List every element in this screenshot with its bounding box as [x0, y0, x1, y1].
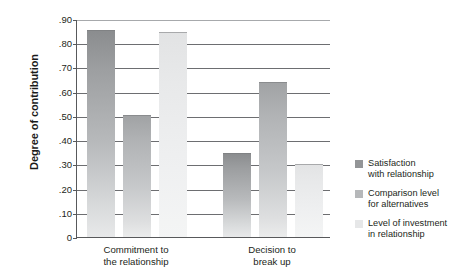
- plot-area: .90.80.70.60.50.40.30.20.100: [76, 20, 330, 238]
- y-axis-tick-label: 0: [67, 233, 72, 243]
- x-axis-category-label-line: Decision to: [202, 244, 342, 256]
- legend-label-line: Comparison level: [368, 188, 439, 199]
- x-axis-category-label: Decision tobreak up: [202, 244, 342, 269]
- gridline: [77, 20, 330, 21]
- legend-label: Satisfactionwith relationship: [368, 158, 434, 181]
- y-axis-tick-label: .70: [59, 64, 72, 74]
- legend-swatch: [355, 160, 363, 168]
- y-axis-tick-label: .90: [59, 15, 72, 25]
- legend-label-line: for alternatives: [368, 199, 439, 210]
- chart-legend: Satisfactionwith relationshipComparison …: [355, 158, 461, 247]
- legend-label-line: Level of investment: [368, 218, 447, 229]
- bar-top-edge: [223, 153, 251, 154]
- legend-swatch: [355, 190, 363, 198]
- bar-top-edge: [159, 32, 187, 33]
- bar: [159, 32, 187, 237]
- y-axis-tick-label: .30: [59, 161, 72, 171]
- legend-item: Comparison levelfor alternatives: [355, 188, 461, 211]
- bar-top-edge: [123, 115, 151, 116]
- bar: [87, 30, 115, 237]
- bar-chart-figure: Degree of contribution .90.80.70.60.50.4…: [0, 0, 461, 280]
- y-axis-tick-label: .50: [59, 112, 72, 122]
- x-axis-category-label-line: break up: [202, 256, 342, 268]
- y-axis-tick-mark: [73, 190, 77, 191]
- y-axis-tick-mark: [73, 214, 77, 215]
- y-axis-tick-mark: [73, 238, 77, 239]
- legend-label: Comparison levelfor alternatives: [368, 188, 439, 211]
- bar-top-edge: [259, 82, 287, 83]
- y-axis-tick-mark: [73, 68, 77, 69]
- y-axis-tick-mark: [73, 93, 77, 94]
- legend-label-line: with relationship: [368, 169, 434, 180]
- x-axis-category-label-line: Commitment to: [66, 244, 206, 256]
- y-axis-tick-label: .20: [59, 185, 72, 195]
- x-axis-category-label-line: the relationship: [66, 256, 206, 268]
- legend-label-line: Satisfaction: [368, 158, 434, 169]
- y-axis-tick-label: .40: [59, 136, 72, 146]
- legend-item: Level of investmentin relationship: [355, 218, 461, 241]
- legend-label: Level of investmentin relationship: [368, 218, 447, 241]
- legend-swatch: [355, 220, 363, 228]
- y-axis-tick-mark: [73, 165, 77, 166]
- y-axis-tick-mark: [73, 141, 77, 142]
- bar-top-edge: [87, 30, 115, 31]
- y-axis-tick-mark: [73, 117, 77, 118]
- bar: [259, 82, 287, 237]
- legend-item: Satisfactionwith relationship: [355, 158, 461, 181]
- y-axis-tick-label: .60: [59, 88, 72, 98]
- y-axis-tick-label: .80: [59, 39, 72, 49]
- y-axis-title: Degree of contribution: [28, 12, 40, 212]
- bar: [123, 115, 151, 237]
- legend-label-line: in relationship: [368, 229, 447, 240]
- y-axis-tick-label: .10: [59, 209, 72, 219]
- x-axis-category-label: Commitment tothe relationship: [66, 244, 206, 269]
- bar-top-edge: [295, 164, 323, 165]
- y-axis-tick-mark: [73, 44, 77, 45]
- bar: [223, 153, 251, 237]
- bar: [295, 164, 323, 237]
- y-axis-tick-mark: [73, 20, 77, 21]
